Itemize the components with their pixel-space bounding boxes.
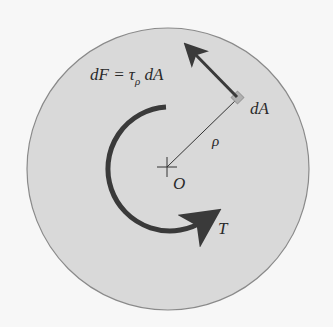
shaft-diagram: dF = τρ dA dA ρ O T [0, 0, 333, 327]
torque-label: T [218, 219, 229, 238]
center-label: O [173, 174, 185, 193]
radius-label: ρ [211, 133, 219, 149]
force-label: dF = τρ dA [90, 65, 164, 87]
shaft-cross-section [27, 28, 309, 310]
area-label: dA [250, 99, 270, 118]
